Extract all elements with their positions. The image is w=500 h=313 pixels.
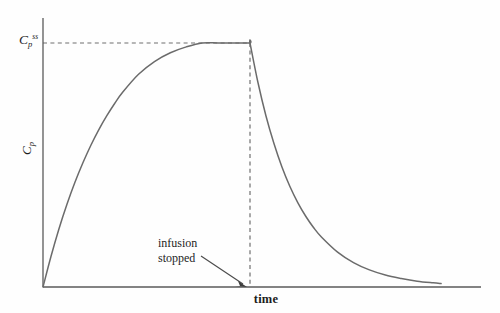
pharmacokinetics-chart: Cpss Cp time infusion stopped — [0, 0, 500, 313]
concentration-time-curve — [43, 40, 441, 287]
y-axis-title-main: C — [19, 146, 34, 155]
annotation-arrow-line — [201, 256, 243, 284]
steady-state-label-sup: ss — [32, 32, 38, 41]
annotation-line-1: infusion — [158, 236, 197, 250]
plot-area: Cpss Cp time infusion stopped — [0, 0, 500, 313]
annotation-line-2: stopped — [158, 251, 195, 265]
y-axis-title: Cp — [19, 142, 36, 155]
x-axis-title: time — [254, 292, 279, 306]
annotation-arrow-head — [235, 281, 247, 287]
steady-state-label: Cpss — [19, 32, 38, 49]
y-axis-title-sub: p — [26, 142, 36, 147]
